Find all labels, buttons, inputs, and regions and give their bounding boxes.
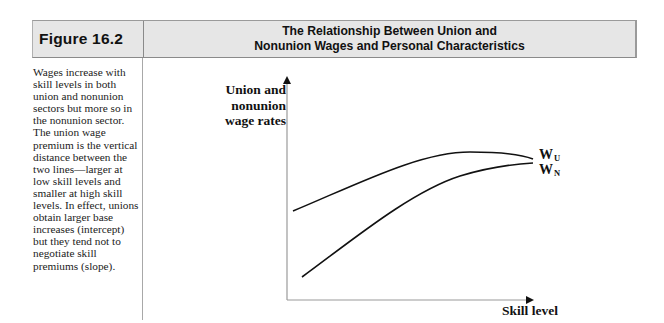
nonunion-wage-label: WN [539, 163, 560, 178]
nonunion-wage-label-sub: N [554, 168, 560, 178]
union-wage-curve [293, 152, 533, 211]
union-wage-label-main: W [539, 147, 553, 162]
y-axis-label-line3: wage rates [214, 113, 286, 129]
y-axis-label-line1: Union and [214, 82, 286, 98]
nonunion-wage-label-main: W [539, 162, 553, 177]
x-axis-label: Skill level [502, 303, 558, 319]
nonunion-wage-curve [302, 163, 533, 277]
y-axis-label: Union and nonunion wage rates [214, 82, 286, 129]
union-wage-label-sub: U [554, 153, 560, 163]
wage-chart [0, 0, 664, 323]
y-axis-label-line2: nonunion [214, 98, 286, 114]
union-wage-label: WU [539, 148, 560, 163]
